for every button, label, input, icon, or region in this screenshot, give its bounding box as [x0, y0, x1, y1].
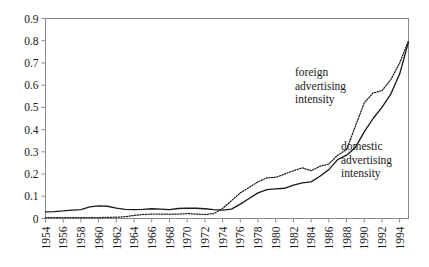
- domestic-series-label-line: intensity: [341, 167, 381, 180]
- x-axis-tick-label: 1964: [128, 226, 140, 249]
- advertising-intensity-line-chart: 00.10.20.30.40.50.60.70.80.9 19541956195…: [0, 0, 429, 267]
- x-axis-tick-labels: 1954195619581960196219641966196819701972…: [40, 226, 406, 249]
- foreign-series-label-line: intensity: [295, 93, 335, 106]
- y-axis-tick-label: 0.7: [24, 57, 39, 69]
- chart-figure: 00.10.20.30.40.50.60.70.80.9 19541956195…: [0, 0, 429, 267]
- foreign-series-label-line: advertising: [295, 80, 346, 93]
- x-axis-tick-label: 1970: [181, 226, 193, 249]
- y-axis-tick-label: 0.3: [24, 146, 39, 158]
- y-axis-tick-label: 0.5: [24, 101, 39, 113]
- y-axis-tick-label: 0.6: [24, 79, 39, 91]
- x-axis-tick-label: 1978: [252, 226, 264, 249]
- x-axis-tick-label: 1986: [323, 226, 335, 249]
- y-axis-tick-label: 0.2: [24, 168, 39, 180]
- y-axis-tick-label: 0.1: [24, 190, 39, 202]
- x-axis-tick-label: 1972: [199, 226, 211, 249]
- x-axis-tick-label: 1960: [93, 226, 105, 249]
- x-axis-tick-label: 1968: [164, 226, 176, 249]
- x-axis-tick-label: 1992: [376, 226, 388, 249]
- y-axis-tick-label: 0.9: [24, 13, 39, 25]
- y-axis-tick-label: 0.4: [24, 124, 39, 136]
- x-axis-tick-label: 1966: [146, 226, 158, 249]
- x-axis-tick-label: 1962: [111, 226, 123, 249]
- x-axis-tick-label: 1974: [217, 226, 229, 249]
- y-axis-tick-label: 0.8: [24, 35, 39, 47]
- x-axis-tick-label: 1980: [270, 226, 282, 249]
- x-axis-tick-label: 1954: [40, 226, 52, 249]
- x-axis-tick-label: 1976: [234, 226, 246, 249]
- x-axis-tick-label: 1990: [358, 226, 370, 249]
- x-axis-tick-marks: [46, 219, 400, 223]
- x-axis-tick-label: 1988: [341, 226, 353, 249]
- x-axis-tick-label: 1982: [288, 226, 300, 249]
- foreign-series-label-line: foreign: [295, 66, 328, 79]
- y-axis-tick-label: 0: [33, 213, 39, 225]
- x-axis-tick-label: 1958: [75, 226, 87, 249]
- x-axis-tick-label: 1984: [305, 226, 317, 249]
- x-axis-tick-label: 1956: [57, 226, 69, 249]
- domestic-series-label-line: domestic: [341, 140, 383, 152]
- domestic-series-label-line: advertising: [341, 154, 392, 167]
- x-axis-tick-label: 1994: [394, 226, 406, 249]
